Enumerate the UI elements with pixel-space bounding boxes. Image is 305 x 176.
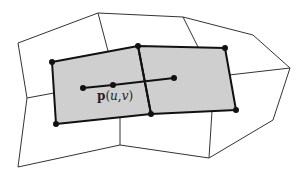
shaded-patch-0 bbox=[52, 46, 151, 124]
vertex-5 bbox=[53, 121, 59, 127]
parameter-point-2 bbox=[171, 75, 177, 81]
vertex-2 bbox=[222, 45, 228, 51]
vertex-4 bbox=[148, 111, 154, 117]
mesh-edge-3 bbox=[209, 111, 212, 158]
mesh-edge-5 bbox=[27, 93, 54, 98]
mesh-edge-0 bbox=[98, 13, 108, 51]
mesh-edge-1 bbox=[183, 17, 198, 47]
vertex-0 bbox=[49, 59, 55, 65]
vertex-1 bbox=[135, 43, 141, 49]
parameter-point-1 bbox=[110, 82, 116, 88]
vertex-3 bbox=[233, 107, 239, 113]
parameter-point-0 bbox=[80, 85, 86, 91]
mesh-diagram bbox=[0, 0, 305, 176]
point-label: p(u,v) bbox=[97, 89, 133, 103]
mesh-edge-2 bbox=[229, 68, 290, 75]
